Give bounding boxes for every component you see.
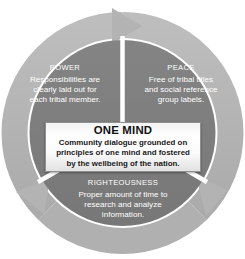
cycle-diagram: POWER Responsibilities are clearly laid … <box>0 0 245 259</box>
center-line-3: by the wellbeing of the nation. <box>56 159 190 170</box>
center-title: ONE MIND <box>94 124 153 136</box>
center-line-1: Community dialogue grounded on <box>56 138 190 149</box>
center-body: Community dialogue grounded on principle… <box>56 138 190 170</box>
center-callout-box: ONE MIND Community dialogue grounded on … <box>45 122 201 172</box>
center-line-2: principles of one mind and fostered <box>56 148 190 159</box>
